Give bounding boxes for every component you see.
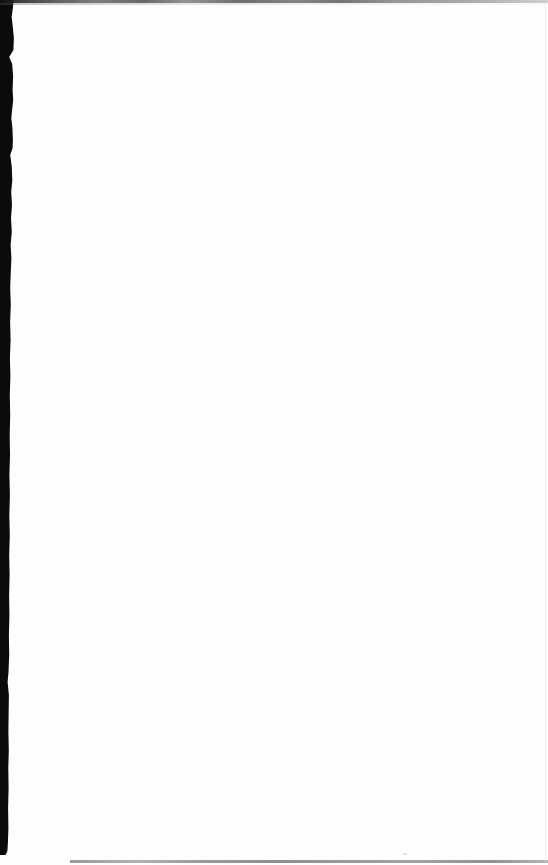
top-scan-edge-fade <box>0 3 548 5</box>
scanned-blank-page <box>0 0 548 865</box>
scan-speck-artifact <box>403 853 407 855</box>
right-page-edge-line <box>545 4 547 862</box>
bottom-scan-edge-line <box>70 860 548 863</box>
scan-gutter-shadow <box>0 0 18 865</box>
scan-gutter-shadow-shape <box>0 0 14 855</box>
